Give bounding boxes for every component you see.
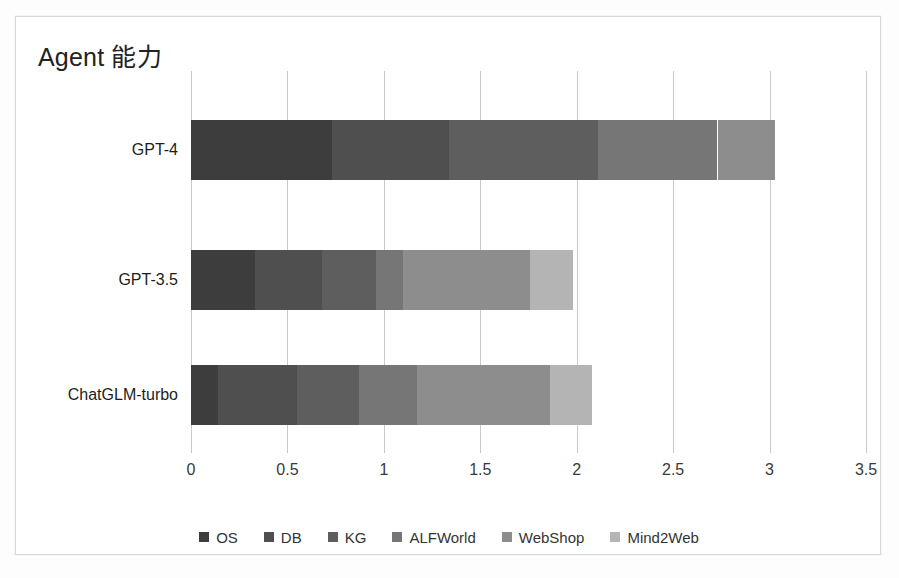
x-axis-tick-label: 0: [187, 461, 196, 479]
bar-segment-alfworld[interactable]: [376, 250, 403, 310]
bar-segment-alfworld[interactable]: [359, 365, 417, 425]
y-axis-category-label: GPT-3.5: [118, 271, 178, 289]
page-title: Agent 能力: [38, 37, 162, 73]
y-axis-category-label: ChatGLM-turbo: [68, 386, 178, 404]
legend-label: ALFWorld: [409, 529, 475, 546]
legend-item-alfworld[interactable]: ALFWorld: [392, 529, 475, 546]
bar-segment-mind2web[interactable]: [530, 250, 572, 310]
legend-swatch-icon: [392, 532, 402, 542]
bar-segment-db[interactable]: [332, 120, 450, 180]
bar-row: [191, 120, 866, 180]
bar-segment-db[interactable]: [218, 365, 297, 425]
legend-swatch-icon: [502, 532, 512, 542]
legend-label: OS: [216, 529, 238, 546]
chart-frame: Agent 能力 00.511.522.533.5GPT-4GPT-3.5Cha…: [15, 16, 881, 555]
x-axis-tick-label: 1: [379, 461, 388, 479]
legend-item-webshop[interactable]: WebShop: [502, 529, 585, 546]
legend-label: DB: [281, 529, 302, 546]
bar-segment-webshop[interactable]: [403, 250, 530, 310]
bar-segment-webshop[interactable]: [417, 365, 550, 425]
legend-swatch-icon: [610, 532, 620, 542]
x-axis-tick-label: 1.5: [469, 461, 491, 479]
bar-segment-kg[interactable]: [449, 120, 598, 180]
bar-segment-db[interactable]: [255, 250, 323, 310]
x-axis-tick-label: 0.5: [276, 461, 298, 479]
gridline: [866, 71, 867, 453]
legend-item-os[interactable]: OS: [199, 529, 238, 546]
legend-swatch-icon: [264, 532, 274, 542]
x-axis-tick-label: 2: [572, 461, 581, 479]
bar-segment-alfworld[interactable]: [598, 120, 718, 180]
legend-label: KG: [345, 529, 367, 546]
plot-area: 00.511.522.533.5GPT-4GPT-3.5ChatGLM-turb…: [191, 71, 866, 453]
bar-segment-kg[interactable]: [322, 250, 376, 310]
legend-item-kg[interactable]: KG: [328, 529, 367, 546]
bar-segment-kg[interactable]: [297, 365, 359, 425]
bar-segment-os[interactable]: [191, 250, 255, 310]
chart-legend: OSDBKGALFWorldWebShopMind2Web: [16, 520, 882, 554]
x-axis-tick-label: 3: [765, 461, 774, 479]
chart-page: Agent 能力 00.511.522.533.5GPT-4GPT-3.5Cha…: [0, 0, 899, 578]
bar-segment-os[interactable]: [191, 365, 218, 425]
legend-swatch-icon: [199, 532, 209, 542]
bar-segment-mind2web[interactable]: [550, 365, 592, 425]
legend-swatch-icon: [328, 532, 338, 542]
legend-label: Mind2Web: [627, 529, 698, 546]
y-axis-category-label: GPT-4: [132, 141, 178, 159]
bar-row: [191, 365, 866, 425]
x-axis-tick-label: 3.5: [855, 461, 877, 479]
bar-segment-os[interactable]: [191, 120, 332, 180]
bar-row: [191, 250, 866, 310]
legend-item-mind2web[interactable]: Mind2Web: [610, 529, 698, 546]
x-axis-tick-label: 2.5: [662, 461, 684, 479]
bar-segment-webshop[interactable]: [718, 120, 776, 180]
legend-label: WebShop: [519, 529, 585, 546]
legend-item-db[interactable]: DB: [264, 529, 302, 546]
